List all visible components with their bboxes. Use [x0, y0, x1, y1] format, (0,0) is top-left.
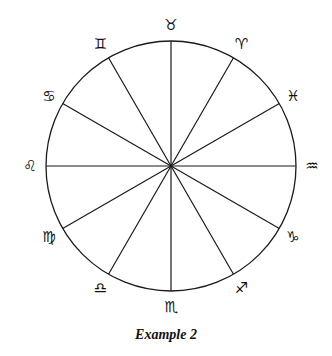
leo-icon: ♌: [23, 157, 36, 175]
spoke-virgo: [63, 166, 171, 229]
wheel-spokes: [46, 41, 296, 291]
pisces-icon: ♓: [286, 87, 299, 105]
spoke-libra: [109, 166, 172, 274]
cancer-icon: ♋: [42, 87, 55, 105]
spoke-sagittarius: [171, 166, 234, 274]
spoke-pisces: [171, 104, 279, 167]
figure-caption: Example 2: [0, 327, 332, 343]
libra-icon: ♎: [94, 279, 107, 297]
zodiac-wheel: ♉♈♓♒♑♐♏♎♍♌♋♊: [0, 0, 332, 356]
spoke-gemini: [109, 58, 172, 166]
virgo-icon: ♍: [42, 228, 55, 246]
sagittarius-icon: ♐: [235, 279, 248, 297]
spoke-cancer: [63, 104, 171, 167]
aquarius-icon: ♒: [305, 157, 318, 175]
gemini-icon: ♊: [94, 35, 107, 53]
aries-icon: ♈: [235, 35, 248, 53]
spoke-aries: [171, 58, 234, 166]
taurus-icon: ♉: [164, 16, 177, 34]
scorpio-icon: ♏: [164, 298, 178, 316]
spoke-capricorn: [171, 166, 279, 229]
capricorn-icon: ♑: [286, 228, 299, 246]
